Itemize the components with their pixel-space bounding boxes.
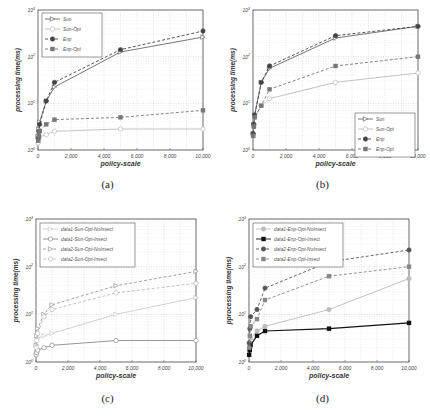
x-axis-label: policy-scale <box>99 160 140 168</box>
x-tick-label: 6,000 <box>126 365 139 371</box>
legend-entry: Sun <box>376 117 385 122</box>
legend-entry: Sun-Opt <box>376 127 395 132</box>
marker-circle-open <box>48 257 52 261</box>
x-tick-label: 4,000 <box>313 153 326 159</box>
marker-circle-filled <box>261 227 265 231</box>
legend-entry: Sun <box>63 17 72 22</box>
marker-square-filled <box>333 64 337 68</box>
y-axis-label: processing time(ms) <box>229 48 237 113</box>
x-tick-label: 2,000 <box>279 153 293 159</box>
legend-entry: data2-Sun-Opt-NoInsect <box>61 247 114 252</box>
x-tick-label: 0 <box>37 153 40 159</box>
marker-circle-open <box>194 338 198 342</box>
y-tick-label: 103 <box>27 7 35 14</box>
legend: SunSun-OptEnpEnp-Opt <box>42 13 102 57</box>
marker-circle-filled <box>255 329 259 333</box>
marker-circle-filled <box>407 276 411 280</box>
marker-square-filled <box>255 317 259 321</box>
marker-circle-filled <box>201 29 205 33</box>
marker-circle-open <box>35 331 39 335</box>
legend: data1-Enp-Opt-NoInsectdata1-Enp-Opt-Inse… <box>253 223 343 267</box>
marker-circle-open <box>114 338 118 342</box>
y-tick-label: 102 <box>242 53 250 60</box>
x-tick-label: 0 <box>248 365 251 371</box>
marker-circle-filled <box>248 315 252 319</box>
marker-circle-open <box>42 315 46 319</box>
y-tick-label: 101 <box>27 100 35 107</box>
marker-square-filled <box>407 321 411 325</box>
marker-circle-filled <box>50 37 54 41</box>
marker-square-filled <box>251 134 255 138</box>
marker-circle-open <box>50 343 54 347</box>
x-tick-label: 8,000 <box>158 365 171 371</box>
marker-circle-open <box>34 346 38 350</box>
marker-circle-open <box>42 346 46 350</box>
marker-circle-open <box>114 291 118 295</box>
x-tick-label: 0 <box>35 365 38 371</box>
marker-square-filled <box>263 298 267 302</box>
marker-square-filled <box>261 257 265 261</box>
legend-entry: Enp-Opt <box>376 147 395 152</box>
marker-circle-open <box>48 237 52 241</box>
chart-panel-d: 10010110210302,0004,0006,0008,00010,000p… <box>215 209 430 418</box>
marker-circle-filled <box>263 324 267 328</box>
legend-entry: data2-Enp-Opt-Insect <box>274 257 321 262</box>
marker-circle-open <box>52 129 56 133</box>
marker-square-filled <box>416 54 420 58</box>
x-tick-label: 10,000 <box>188 365 204 371</box>
caption-d: (d) <box>215 392 430 404</box>
x-tick-label: 4,000 <box>94 365 107 371</box>
legend: SunSun-OptEnpEnp-Opt <box>355 113 415 157</box>
legend-entry: data1-Enp-Opt-NoInsect <box>274 227 327 232</box>
marker-circle-open <box>201 127 205 131</box>
x-axis-label: policy-scale <box>95 372 136 380</box>
marker-circle-open <box>194 281 198 285</box>
x-tick-label: 0 <box>252 153 255 159</box>
marker-circle-open <box>44 132 48 136</box>
legend-entry: data1-Enp-Opt-Insect <box>274 237 321 242</box>
y-tick-label: 100 <box>27 147 35 154</box>
x-tick-label: 6,000 <box>339 365 352 371</box>
y-tick-label: 100 <box>238 359 246 366</box>
marker-circle-filled <box>327 307 331 311</box>
marker-circle-open <box>333 80 337 84</box>
chart-c: 10010110210302,0004,0006,0008,00010,000p… <box>0 209 215 399</box>
marker-square-filled <box>201 108 205 112</box>
marker-square-filled <box>252 115 256 119</box>
marker-circle-filled <box>44 99 48 103</box>
legend-entry: Sun-Opt <box>63 27 82 32</box>
y-tick-label: 100 <box>242 147 250 154</box>
marker-circle-open <box>416 71 420 75</box>
marker-circle-filled <box>263 286 267 290</box>
x-tick-label: 2,000 <box>64 153 78 159</box>
marker-circle-filled <box>267 64 271 68</box>
y-axis-label: pprocessing time(ms) <box>225 257 233 326</box>
marker-circle-filled <box>363 137 367 141</box>
marker-square-filled <box>37 129 41 133</box>
legend-entry: data2-Sun-Opt-Insect <box>61 257 108 262</box>
y-tick-label: 102 <box>27 53 35 60</box>
x-tick-label: 2,000 <box>274 365 288 371</box>
chart-b: 10010110210302,0004,0006,0008,00010,000p… <box>215 0 430 190</box>
marker-circle-open <box>35 338 39 342</box>
y-axis-label: processing time(ms) <box>12 259 20 324</box>
legend-entry: Enp <box>376 137 385 142</box>
marker-square-filled <box>50 47 54 51</box>
marker-square-filled <box>247 346 251 350</box>
marker-square-filled <box>263 329 267 333</box>
x-tick-label: 2,000 <box>61 365 75 371</box>
marker-square-filled <box>248 334 252 338</box>
marker-square-filled <box>44 122 48 126</box>
y-tick-label: 103 <box>25 216 33 223</box>
x-tick-label: 4,000 <box>307 365 320 371</box>
marker-square-filled <box>267 87 271 91</box>
marker-square-filled <box>327 274 331 278</box>
marker-square-filled <box>52 117 56 121</box>
marker-circle-filled <box>52 80 56 84</box>
marker-square-filled <box>36 138 40 142</box>
y-tick-label: 101 <box>25 311 33 318</box>
x-tick-label: 10,000 <box>195 153 211 159</box>
marker-square-filled <box>252 124 256 128</box>
y-axis-label: processing time(ms) <box>14 48 22 113</box>
y-tick-label: 101 <box>242 100 250 107</box>
